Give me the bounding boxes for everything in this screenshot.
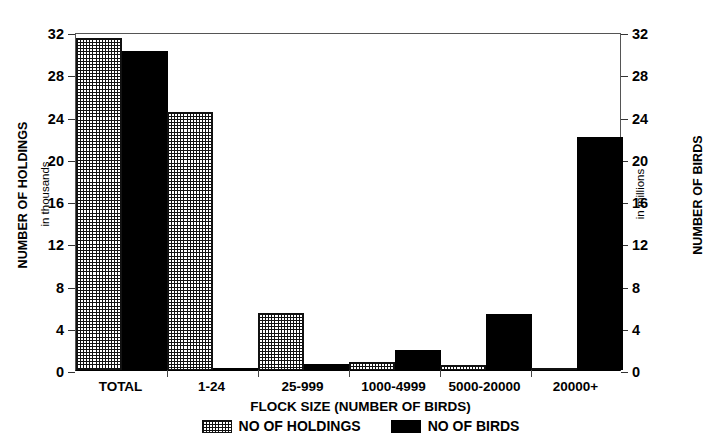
x-axis-category-label: 20000+ — [516, 379, 636, 394]
legend-label-holdings: NO OF HOLDINGS — [239, 418, 361, 434]
y-tick-left — [68, 288, 75, 289]
y-tick-left — [68, 245, 75, 246]
bar-birds — [304, 364, 350, 370]
y-tick-label-left: 16 — [24, 196, 64, 211]
bar-birds — [395, 350, 441, 370]
bar-holdings — [76, 38, 122, 370]
y-tick-label-left: 28 — [24, 69, 64, 84]
y-tick-right — [621, 34, 628, 35]
legend-label-birds: NO OF BIRDS — [428, 418, 520, 434]
bar-holdings — [349, 362, 395, 370]
x-axis-title: FLOCK SIZE (NUMBER OF BIRDS) — [0, 399, 721, 414]
plot-area: 048121620242832 048121620242832 — [75, 33, 621, 371]
y-tick-left — [68, 119, 75, 120]
y-tick-left — [68, 34, 75, 35]
y-tick-left — [68, 203, 75, 204]
y-tick-label-right: 4 — [632, 323, 672, 338]
bar-holdings — [440, 365, 486, 370]
y-tick-left — [68, 161, 75, 162]
legend-swatch-holdings-icon — [202, 420, 232, 433]
y-tick-label-right: 8 — [632, 281, 672, 296]
bar-birds — [122, 51, 168, 370]
y-tick-label-right: 32 — [632, 27, 672, 42]
chart-legend: NO OF HOLDINGS NO OF BIRDS — [0, 418, 721, 434]
y-tick-label-right: 20 — [632, 154, 672, 169]
y-axis-left-title: NUMBER OF HOLDINGS — [16, 110, 30, 280]
legend-item-birds: NO OF BIRDS — [391, 418, 520, 434]
y-tick-right — [621, 76, 628, 77]
y-tick-label-right: 0 — [632, 365, 672, 380]
category-divider — [349, 370, 350, 377]
y-tick-label-right: 24 — [632, 112, 672, 127]
y-tick-label-right: 12 — [632, 238, 672, 253]
bar-holdings — [258, 313, 304, 370]
y-tick-label-left: 24 — [24, 112, 64, 127]
category-divider — [531, 370, 532, 377]
y-tick-label-right: 28 — [632, 69, 672, 84]
y-tick-label-left: 20 — [24, 154, 64, 169]
y-tick-left — [68, 330, 75, 331]
bar-holdings — [531, 368, 577, 370]
bar-holdings — [167, 112, 213, 370]
y-tick-left — [68, 372, 75, 373]
y-tick-label-left: 4 — [24, 323, 64, 338]
bar-chart: NUMBER OF HOLDINGS in thousands NUMBER O… — [0, 0, 721, 438]
y-tick-right — [621, 119, 628, 120]
category-divider — [440, 370, 441, 377]
y-axis-right-title: NUMBER OF BIRDS — [691, 110, 705, 280]
y-tick-right — [621, 372, 628, 373]
y-tick-label-left: 0 — [24, 365, 64, 380]
y-tick-label-left: 8 — [24, 281, 64, 296]
legend-item-holdings: NO OF HOLDINGS — [202, 418, 361, 434]
bar-birds — [577, 137, 623, 370]
y-tick-label-right: 16 — [632, 196, 672, 211]
legend-swatch-birds-icon — [391, 420, 421, 433]
y-tick-label-left: 32 — [24, 27, 64, 42]
y-tick-label-left: 12 — [24, 238, 64, 253]
bar-birds — [213, 368, 259, 370]
bar-birds — [486, 314, 532, 370]
y-tick-left — [68, 76, 75, 77]
category-divider — [167, 370, 168, 377]
category-divider — [258, 370, 259, 377]
